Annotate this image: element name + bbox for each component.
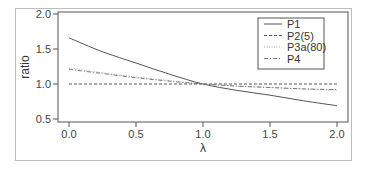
y-tick-label: 0.5: [36, 113, 51, 125]
y-axis-title: ratio: [18, 55, 32, 79]
legend-label: P3a(80): [287, 41, 326, 53]
y-tick-label: 2.0: [36, 8, 51, 20]
x-axis-title: λ: [200, 141, 206, 155]
x-tick-label: 1.5: [262, 128, 277, 140]
y-axis: 0.51.01.52.0: [36, 8, 58, 125]
legend-label: P1: [287, 18, 300, 30]
legend: P1P2(5)P3a(80)P4: [258, 18, 326, 69]
legend-label: P2(5): [287, 30, 314, 42]
legend-label: P4: [287, 53, 300, 65]
series-line-p3a-80-: [69, 68, 337, 90]
x-tick-label: 0.0: [61, 128, 76, 140]
x-axis: 0.00.51.01.52.0: [61, 122, 344, 140]
x-tick-label: 2.0: [329, 128, 344, 140]
y-tick-label: 1.5: [36, 43, 51, 55]
y-tick-label: 1.0: [36, 78, 51, 90]
x-tick-label: 1.0: [195, 128, 210, 140]
x-tick-label: 0.5: [128, 128, 143, 140]
series-line-p4: [69, 69, 337, 89]
line-chart: 0.51.01.52.0 0.00.51.01.52.0 ratio λ P1P…: [0, 0, 365, 170]
